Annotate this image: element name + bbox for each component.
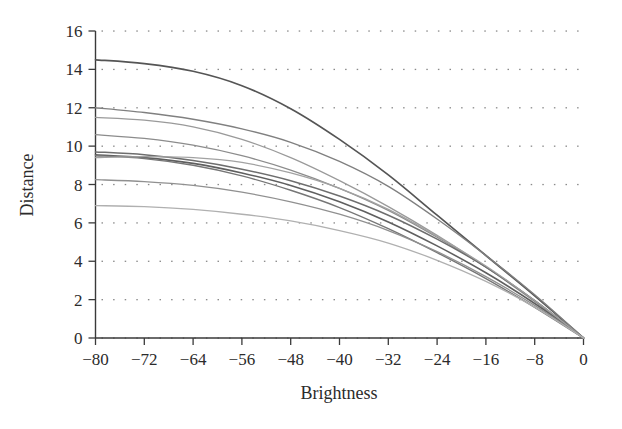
- grid-dot: [287, 69, 289, 70]
- grid-dot: [276, 30, 278, 31]
- grid-dot: [287, 146, 289, 147]
- grid-dot: [577, 69, 579, 70]
- grid-dot: [484, 261, 486, 262]
- grid-dot: [554, 146, 556, 147]
- grid-dot: [252, 30, 254, 31]
- line-chart: 0246810121416 −80−72−64−56−48−40−32−24−1…: [0, 0, 622, 429]
- grid-dot: [461, 146, 463, 147]
- grid-dot: [310, 184, 312, 185]
- grid-dot: [241, 222, 243, 223]
- grid-dot: [276, 261, 278, 262]
- x-tick-label: −8: [526, 350, 544, 369]
- grid-dot: [403, 107, 405, 108]
- y-tick-label: 4: [74, 252, 83, 271]
- grid-dot: [287, 222, 289, 223]
- grid-dot: [577, 222, 579, 223]
- grid-dot: [276, 299, 278, 300]
- grid-dot: [438, 222, 440, 223]
- grid-dot: [241, 30, 243, 31]
- grid-dot: [299, 69, 301, 70]
- grid-dot: [136, 261, 138, 262]
- grid-dot: [473, 107, 475, 108]
- grid-dot: [171, 261, 173, 262]
- grid-dot: [194, 261, 196, 262]
- grid-dot: [183, 222, 185, 223]
- grid-dot: [276, 222, 278, 223]
- grid-dot: [438, 107, 440, 108]
- grid-dot: [148, 146, 150, 147]
- grid-dot: [218, 107, 220, 108]
- grid-dot: [310, 69, 312, 70]
- grid-dot: [287, 30, 289, 31]
- grid-dot: [426, 222, 428, 223]
- y-axis-title: Distance: [17, 154, 37, 217]
- grid-dot: [450, 69, 452, 70]
- grid-dot: [473, 69, 475, 70]
- grid-dot: [334, 299, 336, 300]
- grid-dot: [531, 261, 533, 262]
- grid-dot: [125, 222, 127, 223]
- grid-dot: [194, 107, 196, 108]
- y-tick-label: 10: [66, 137, 83, 156]
- grid-dot: [252, 107, 254, 108]
- grid-dot: [252, 184, 254, 185]
- grid-dot: [357, 146, 359, 147]
- grid-dot: [496, 107, 498, 108]
- grid-dot: [426, 146, 428, 147]
- grid-dot: [461, 184, 463, 185]
- grid-dot: [531, 222, 533, 223]
- grid-dot: [310, 261, 312, 262]
- x-tick-label: −16: [473, 350, 500, 369]
- grid-dot: [345, 107, 347, 108]
- grid-dot: [577, 184, 579, 185]
- grid-dot: [113, 30, 115, 31]
- grid-dot: [136, 69, 138, 70]
- grid-dot: [160, 30, 162, 31]
- grid-dot: [264, 69, 266, 70]
- grid-dot: [218, 69, 220, 70]
- grid-dot: [519, 222, 521, 223]
- grid-dot: [473, 222, 475, 223]
- grid-dot: [322, 69, 324, 70]
- grid-dot: [519, 146, 521, 147]
- y-tick-label: 14: [66, 60, 84, 79]
- grid-dot: [450, 184, 452, 185]
- grid-dot: [229, 184, 231, 185]
- grid-dot: [368, 30, 370, 31]
- grid-dot: [357, 299, 359, 300]
- x-tick-label: −72: [131, 350, 158, 369]
- grid-dot: [218, 299, 220, 300]
- grid-dot: [508, 222, 510, 223]
- grid-dot: [206, 184, 208, 185]
- grid-dot: [206, 261, 208, 262]
- grid-dot: [461, 107, 463, 108]
- grid-dot: [125, 299, 127, 300]
- series-line: [96, 117, 584, 338]
- grid-dot: [368, 261, 370, 262]
- grid-dot: [148, 69, 150, 70]
- grid-dot: [380, 222, 382, 223]
- grid-dot: [357, 107, 359, 108]
- grid-dot: [577, 299, 579, 300]
- grid-dot: [531, 30, 533, 31]
- grid-dot: [310, 30, 312, 31]
- grid-dot: [148, 30, 150, 31]
- grid-dot: [241, 184, 243, 185]
- grid-dot: [566, 69, 568, 70]
- x-tick-label: −32: [375, 350, 402, 369]
- grid-dot: [403, 261, 405, 262]
- grid-dot: [426, 184, 428, 185]
- grid-dot: [264, 107, 266, 108]
- grid-dot: [229, 299, 231, 300]
- grid-dot: [566, 299, 568, 300]
- grid-dot: [438, 30, 440, 31]
- grid-dot: [438, 146, 440, 147]
- grid-dot: [392, 184, 394, 185]
- grid-dot: [334, 69, 336, 70]
- grid-dot: [554, 30, 556, 31]
- grid-dot: [229, 30, 231, 31]
- grid-dot: [461, 261, 463, 262]
- grid-dot: [473, 146, 475, 147]
- data-series-group: [96, 60, 584, 338]
- grid-dot: [403, 299, 405, 300]
